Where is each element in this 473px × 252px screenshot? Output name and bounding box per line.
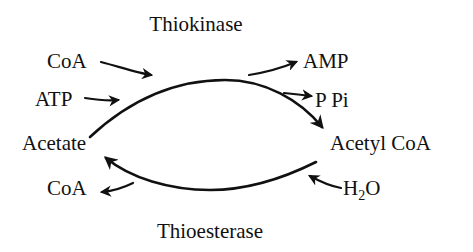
input-atp-label: ATP	[35, 87, 72, 111]
water-input-arrow	[310, 176, 341, 188]
node-acetate: Acetate	[22, 131, 86, 155]
node-acetyl-coa: Acetyl CoA	[330, 131, 432, 155]
water-o: O	[365, 176, 380, 200]
enzyme-thiokinase-label: Thiokinase	[149, 12, 242, 36]
input-coa-label: CoA	[47, 49, 88, 73]
atp-input-arrow	[85, 98, 118, 100]
input-water-label: H2O	[343, 176, 380, 203]
ppi-output-arrow	[284, 93, 311, 96]
enzyme-thioesterase-label: Thioesterase	[157, 219, 263, 243]
amp-output-arrow	[249, 62, 296, 75]
reverse-reaction-arrow	[106, 158, 316, 190]
water-h: H	[343, 176, 358, 200]
coa-input-arrow	[101, 62, 151, 75]
output-amp-label: AMP	[303, 49, 349, 73]
metabolic-diagram: Thiokinase Thioesterase Acetate Acetyl C…	[0, 0, 473, 252]
output-coa-bottom-label: CoA	[47, 176, 88, 200]
water-subscript: 2	[358, 188, 365, 203]
output-ppi-label: P Pi	[315, 88, 349, 112]
coa-output-arrow	[102, 183, 133, 192]
forward-reaction-arrow	[90, 80, 322, 137]
